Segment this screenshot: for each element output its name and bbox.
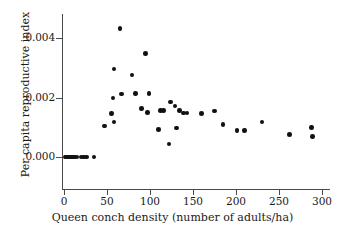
y-tick-label: 0.002 (9, 92, 55, 103)
y-axis-title: Per capita reproductive index (19, 0, 32, 190)
data-point (156, 127, 161, 132)
data-point (168, 100, 173, 105)
data-point (139, 106, 144, 111)
data-point (212, 109, 217, 114)
data-point (310, 134, 315, 139)
x-tick-label: 200 (216, 195, 256, 207)
x-tick-label: 250 (259, 195, 299, 207)
data-point (133, 91, 138, 96)
data-point (242, 128, 247, 133)
y-tick-label: 0.000 (9, 151, 55, 162)
data-point (199, 111, 204, 116)
plot-data-area (62, 14, 330, 188)
data-point (143, 51, 148, 56)
y-tick-label: 0.004 (9, 32, 55, 43)
data-point (145, 110, 150, 115)
x-tick-label: 0 (44, 195, 84, 207)
data-point (109, 111, 114, 116)
x-tick-label: 100 (130, 195, 170, 207)
data-point (235, 128, 240, 133)
data-point (84, 155, 89, 160)
data-point (102, 124, 107, 129)
x-tick-label: 300 (302, 195, 342, 207)
data-point (309, 125, 314, 130)
data-point (174, 126, 179, 131)
data-point (221, 122, 226, 127)
x-axis-title: Queen conch density (number of adults/ha… (0, 211, 345, 224)
x-tick-label: 150 (173, 195, 213, 207)
x-tick-label: 50 (87, 195, 127, 207)
data-point (118, 26, 123, 31)
x-axis-line (62, 189, 330, 190)
scatter-plot-figure: 0.0000.0020.004 050100150200250300 Per c… (0, 0, 345, 234)
data-point (161, 108, 166, 113)
data-point (287, 132, 292, 137)
data-point (119, 92, 124, 97)
